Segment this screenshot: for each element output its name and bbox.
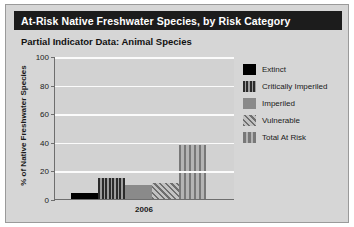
- legend-swatch-icon: [243, 115, 256, 126]
- legend-item: Imperiled: [243, 95, 354, 112]
- y-tick-mark: [51, 114, 55, 115]
- legend-label: Extinct: [262, 65, 286, 74]
- legend-swatch-icon: [243, 81, 256, 92]
- panel-title: At-Risk Native Freshwater Species, by Ri…: [14, 15, 290, 27]
- legend-label: Total At Risk: [262, 133, 306, 142]
- bar: [71, 193, 98, 199]
- y-axis-title-text: % of Native Freshwater Species: [19, 65, 28, 186]
- panel-subtitle: Partial Indicator Data: Animal Species: [21, 36, 192, 47]
- bar-group: [57, 57, 235, 199]
- legend-swatch-icon: [243, 132, 256, 143]
- legend-item: Extinct: [243, 61, 354, 78]
- y-axis-ticks: 020406080100: [28, 55, 52, 200]
- bar: [152, 183, 179, 199]
- y-tick-label: 60: [40, 110, 49, 119]
- bar: [125, 185, 152, 199]
- y-tick-label: 40: [40, 138, 49, 147]
- y-tick-label: 100: [36, 53, 49, 62]
- gridline: [55, 86, 234, 88]
- legend-item: Vulnerable: [243, 112, 354, 129]
- y-tick-label: 80: [40, 81, 49, 90]
- legend-item: Total At Risk: [243, 129, 354, 146]
- legend-swatch-icon: [243, 98, 256, 109]
- y-tick-label: 0: [45, 196, 49, 205]
- y-tick-mark: [51, 57, 55, 58]
- y-tick-mark: [51, 200, 55, 201]
- gridline: [55, 114, 234, 116]
- chart-panel: At-Risk Native Freshwater Species, by Ri…: [5, 4, 349, 223]
- y-tick-mark: [51, 171, 55, 172]
- y-tick-label: 20: [40, 167, 49, 176]
- panel-title-bar: At-Risk Native Freshwater Species, by Ri…: [14, 11, 342, 30]
- legend-label: Critically Imperiled: [262, 82, 327, 91]
- legend-label: Imperiled: [262, 99, 295, 108]
- chart-legend: ExtinctCritically ImperiledImperiledVuln…: [243, 61, 354, 146]
- legend-label: Vulnerable: [262, 116, 300, 125]
- y-tick-mark: [51, 143, 55, 144]
- legend-item: Critically Imperiled: [243, 78, 354, 95]
- y-tick-mark: [51, 86, 55, 87]
- bar: [98, 178, 125, 199]
- x-axis-label: 2006: [54, 205, 234, 214]
- gridline: [55, 57, 234, 59]
- legend-swatch-icon: [243, 64, 256, 75]
- gridline: [55, 171, 234, 173]
- axes: [54, 57, 234, 200]
- gridline: [55, 143, 234, 145]
